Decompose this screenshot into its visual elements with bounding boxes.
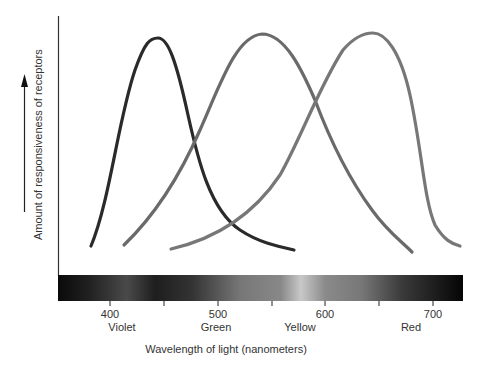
color-label-red: Red xyxy=(401,321,421,333)
color-label-green: Green xyxy=(201,321,232,333)
y-axis-label: Amount of responsiveness of receptors xyxy=(32,49,44,240)
up-arrow-icon xyxy=(21,74,28,212)
tick-label-600: 600 xyxy=(316,308,334,320)
x-ticks xyxy=(110,301,433,306)
x-axis-label: Wavelength of light (nanometers) xyxy=(145,343,307,355)
tick-label-700: 700 xyxy=(424,308,442,320)
color-label-violet: Violet xyxy=(108,321,135,333)
long-wavelength-curve xyxy=(171,33,460,249)
spectrum-bar xyxy=(58,275,463,301)
medium-wavelength-curve xyxy=(124,34,412,252)
tick-label-400: 400 xyxy=(101,308,119,320)
cone-response-chart: Amount of responsiveness of receptors 40… xyxy=(0,0,487,368)
tick-label-500: 500 xyxy=(209,308,227,320)
color-label-yellow: Yellow xyxy=(284,321,315,333)
